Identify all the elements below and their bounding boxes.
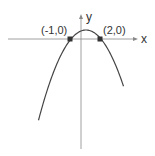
y-axis-label: y — [86, 10, 92, 24]
root-point-right — [98, 37, 103, 42]
x-axis-label: x — [141, 32, 147, 46]
y-axis-arrow-icon — [79, 14, 83, 19]
parabola-diagram: x y (-1,0) (2,0) — [0, 0, 155, 156]
root-point-left — [68, 37, 73, 42]
point-label-right: (2,0) — [103, 24, 126, 36]
point-label-left: (-1,0) — [41, 24, 67, 36]
x-axis-arrow-icon — [133, 37, 138, 41]
